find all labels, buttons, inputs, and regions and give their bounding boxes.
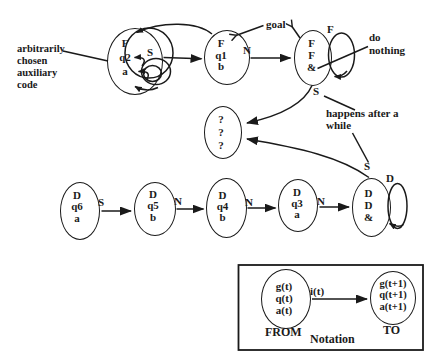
- notation-from-label: FROM: [265, 326, 302, 338]
- state-text-line: a: [122, 64, 128, 78]
- state-q1-goal: F q1 b: [204, 30, 250, 85]
- state-text-line: q(t): [275, 292, 292, 304]
- state-text-line: &: [364, 211, 373, 223]
- transition-label-ff-self-f: F: [327, 23, 334, 35]
- note-line: while: [326, 119, 399, 131]
- state-aux-code: F q2 a: [107, 28, 163, 95]
- curve-ff-s-to-unknown: [247, 86, 312, 124]
- state-text-line: D: [219, 190, 227, 201]
- notation-to-state: g(t+1) q(t+1) a(t+1): [370, 271, 416, 325]
- state-text-line: D: [365, 187, 373, 199]
- state-text-line: a: [74, 213, 80, 225]
- state-q3: D q3 a: [278, 179, 318, 232]
- state-unknown: ? ? ?: [204, 106, 242, 159]
- transition-label-q5-n: N: [174, 195, 182, 207]
- ff-exit-arrow: [292, 27, 300, 39]
- note-line: do: [369, 31, 405, 44]
- state-text-line: b: [218, 61, 224, 73]
- state-text-line: F: [122, 36, 129, 50]
- arrow-aux-to-q1: [164, 58, 202, 59]
- state-q5: D q5 b: [134, 182, 176, 236]
- note-line: arbitrarily: [17, 43, 65, 55]
- after-while-note: happens after a while: [326, 107, 399, 131]
- state-text-line: q4: [217, 201, 229, 212]
- state-text-line: a(t): [276, 304, 293, 316]
- state-text-line: a: [294, 209, 300, 220]
- state-q6: D q6 a: [60, 182, 100, 240]
- transition-label-aux-s: S: [147, 46, 153, 58]
- after-while-pointer-bottom: [353, 133, 369, 163]
- state-text-line: &: [307, 61, 316, 73]
- state-text-line: g(t): [276, 280, 293, 292]
- state-machine-figure: F q2 a F q1 b F F & ? ? ? D q6 a D q5 b …: [0, 0, 433, 359]
- transition-label-dd-self-d: D: [386, 172, 394, 184]
- note-line: code: [17, 79, 65, 91]
- aux-code-note: arbitrarily chosen auxiliary code: [17, 43, 65, 91]
- note-line: auxiliary: [17, 67, 65, 79]
- aux-note-pointer: [63, 51, 108, 61]
- note-line: happens after a: [326, 107, 399, 119]
- ff-self-loop-arrow: [335, 71, 348, 77]
- do-nothing-note: do nothing: [369, 31, 405, 56]
- transition-label-q1-n: N: [243, 44, 251, 56]
- state-text-line: b: [150, 212, 156, 224]
- notation-from-state: g(t) q(t) a(t): [261, 269, 311, 329]
- note-line: nothing: [369, 44, 405, 57]
- state-dd-amp: D D &: [352, 178, 391, 237]
- state-text-line: a(t+1): [380, 301, 407, 313]
- ff-self-loop: [329, 33, 355, 77]
- curve-dd-s-to-unknown: [247, 139, 369, 178]
- state-text-line: q2: [119, 50, 131, 64]
- state-text-line: F: [308, 37, 315, 49]
- state-text-line: F: [308, 49, 315, 61]
- state-text-line: q(t+1): [379, 289, 407, 301]
- note-line: chosen: [17, 55, 65, 67]
- state-text-line: ?: [218, 113, 224, 126]
- goal-label: goal: [266, 18, 286, 30]
- dd-self-loop-arrow: [390, 224, 404, 227]
- transition-label-dd-s: S: [364, 160, 370, 172]
- transition-label-q4-n: N: [245, 196, 253, 208]
- transition-label-q3-n: N: [317, 195, 325, 207]
- state-text-line: b: [219, 212, 225, 223]
- state-text-line: g(t+1): [380, 278, 407, 290]
- transition-label-ff-s: S: [313, 85, 319, 97]
- state-ff-amp: F F &: [294, 30, 332, 86]
- notation-to-label: TO: [383, 324, 400, 336]
- state-q4: D q4 b: [206, 178, 247, 238]
- transition-label-q6-s: S: [98, 196, 104, 208]
- notation-caption: Notation: [310, 333, 355, 345]
- state-text-line: ?: [218, 126, 224, 139]
- state-text-line: D: [365, 199, 373, 211]
- notation-input-label: i(t): [310, 285, 324, 297]
- state-text-line: ?: [218, 139, 224, 152]
